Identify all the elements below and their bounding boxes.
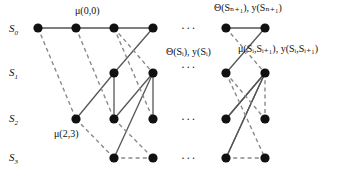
graph-node [148, 114, 157, 123]
annotation-mu-y-Si-Si1: μ(Sᵢ,Sᵢ₊₁), y(Sᵢ,Sᵢ₊₁) [238, 44, 318, 54]
annotation-theta-y-Si: Θ(Sᵢ), y(Sᵢ) [166, 47, 211, 57]
graph-node [260, 153, 269, 162]
graph-node [260, 114, 269, 123]
graph-node [260, 68, 269, 77]
graph-node [221, 23, 230, 32]
row-label-subscript: 1 [15, 73, 19, 81]
row-label-s1: S1 [9, 67, 18, 81]
graph-node [260, 23, 269, 32]
ellipsis-row2: ··· [181, 113, 197, 125]
row-label-s0: S0 [9, 23, 18, 37]
row-label-subscript: 0 [15, 29, 19, 37]
graph-node [71, 23, 80, 32]
row-label-s3: S3 [9, 152, 18, 166]
ellipsis-row0: ··· [181, 22, 197, 34]
annotation-theta-y-Sn1: Θ(Sₙ₊₁), y(Sₙ₊₁) [214, 3, 282, 13]
graph-node [109, 153, 118, 162]
graph-node [71, 114, 80, 123]
graph-node [109, 114, 118, 123]
graph-node [221, 68, 230, 77]
graph-node [148, 68, 157, 77]
figure-canvas: S0S1S2S3 μ(0,0)Θ(Sₙ₊₁), y(Sₙ₊₁)Θ(Sᵢ), y(… [0, 0, 339, 177]
graph-node [221, 153, 230, 162]
annotation-mu-0-0: μ(0,0) [75, 6, 100, 16]
graph-node [109, 68, 118, 77]
graph-node [148, 23, 157, 32]
graph-node [221, 114, 230, 123]
ellipsis-row3: ··· [181, 152, 197, 164]
row-label-subscript: 3 [15, 158, 19, 166]
graph-node [148, 153, 157, 162]
row-label-s2: S2 [9, 113, 18, 127]
row-label-subscript: 2 [15, 119, 19, 127]
graph-node [33, 23, 42, 32]
node-layer [0, 0, 339, 177]
graph-node [109, 23, 118, 32]
ellipsis-row1: ··· [181, 61, 197, 73]
annotation-mu-2-3: μ(2,3) [54, 129, 79, 139]
